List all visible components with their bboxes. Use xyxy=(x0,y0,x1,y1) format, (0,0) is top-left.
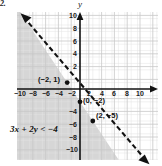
point-label-a: (−2, 1) xyxy=(38,76,60,84)
x-tick-label-6: 6 xyxy=(112,90,116,97)
x-tick-label-8: 8 xyxy=(125,90,129,97)
x-tick-label--6: −6 xyxy=(42,90,50,97)
coordinate-plane xyxy=(0,0,162,166)
point-marker-c xyxy=(90,119,95,124)
y-tick-label-2: 2 xyxy=(73,63,77,70)
y-tick-label-4: 4 xyxy=(73,50,77,57)
point-label-c: (2, −5) xyxy=(96,112,118,120)
graph-figure: 2. y xyxy=(0,0,162,166)
y-tick-label--8: −8 xyxy=(69,134,77,141)
x-tick-label-10: 10 xyxy=(136,90,144,97)
y-tick-label-8: 8 xyxy=(73,25,77,32)
x-tick-label--8: −8 xyxy=(29,90,37,97)
x-tick-label--2: −2 xyxy=(68,90,76,97)
y-tick-label--10: −10 xyxy=(66,146,78,153)
inequality-label: 3x + 2y < −4 xyxy=(10,124,58,134)
y-tick-label-6: 6 xyxy=(73,38,77,45)
y-tick-label-10: 10 xyxy=(69,12,77,19)
x-tick-label--4: −4 xyxy=(55,90,63,97)
point-marker-b xyxy=(78,99,83,104)
y-tick-label--4: −4 xyxy=(69,108,77,115)
x-tick-label--10: −10 xyxy=(14,90,26,97)
point-label-b: (0, −2) xyxy=(83,97,105,105)
point-marker-a xyxy=(65,80,70,85)
y-tick-label--6: −6 xyxy=(69,121,77,128)
